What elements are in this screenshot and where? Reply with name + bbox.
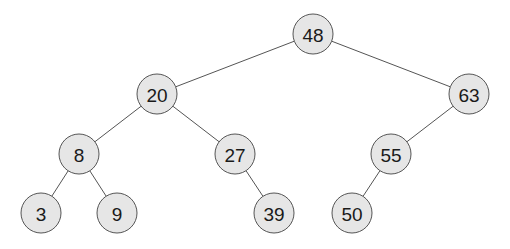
node-label: 63	[458, 85, 479, 106]
node-label: 50	[341, 204, 362, 225]
node-label: 9	[112, 204, 123, 225]
node-label: 3	[36, 204, 47, 225]
node-label: 27	[224, 145, 245, 166]
node-label: 48	[302, 25, 323, 46]
edge-8-3	[52, 171, 68, 196]
tree-node-20: 20	[137, 74, 177, 114]
node-label: 20	[146, 85, 167, 106]
edge-48-20	[176, 41, 295, 87]
node-label: 39	[263, 204, 284, 225]
tree-node-55: 55	[371, 134, 411, 174]
tree-nodes: 48206382755393950	[21, 14, 489, 233]
tree-node-48: 48	[293, 14, 333, 54]
edge-8-9	[90, 171, 106, 196]
tree-node-27: 27	[215, 134, 255, 174]
edge-27-39	[246, 171, 263, 197]
tree-node-8: 8	[59, 134, 99, 174]
tree-node-3: 3	[21, 193, 61, 233]
tree-node-50: 50	[332, 193, 372, 233]
tree-node-63: 63	[449, 74, 489, 114]
node-label: 8	[74, 145, 85, 166]
edge-48-63	[332, 41, 451, 87]
tree-node-39: 39	[254, 193, 294, 233]
tree-node-9: 9	[97, 193, 137, 233]
binary-tree-diagram: 48206382755393950	[0, 0, 510, 249]
edge-20-27	[173, 106, 219, 142]
edge-55-50	[363, 171, 380, 197]
edge-63-55	[407, 106, 453, 142]
node-label: 55	[380, 145, 401, 166]
edge-20-8	[95, 106, 141, 142]
